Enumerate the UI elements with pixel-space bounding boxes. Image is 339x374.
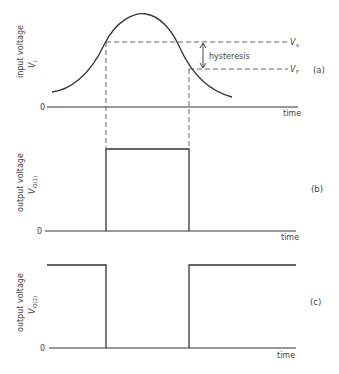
input-signal-curve <box>52 14 232 97</box>
hysteresis-label: hysteresis <box>209 52 250 61</box>
zero-label-a: 0 <box>40 103 45 112</box>
part-label-c: (c) <box>310 297 321 307</box>
panel-c: 0 time (c) output voltage V O(2) <box>16 265 321 360</box>
ylabel-b: output voltage <box>16 153 25 212</box>
ysymbol-sub-b: O(1) <box>32 176 38 188</box>
time-label-a: time <box>283 109 301 118</box>
panel-a: 0 time V s V F hysteresis (a) input volt… <box>16 14 325 118</box>
time-label-c: time <box>277 351 295 360</box>
time-label-b: time <box>281 233 299 242</box>
part-label-b: (b) <box>311 184 323 194</box>
output2-high-left <box>47 265 106 348</box>
schmitt-trigger-diagram: 0 time V s V F hysteresis (a) input volt… <box>0 0 339 374</box>
ylabel-a: input voltage <box>16 25 25 78</box>
output2-high-right <box>189 265 296 348</box>
ylabel-c: output voltage <box>16 273 25 332</box>
panel-b: 0 time (b) output voltage V O(1) <box>16 149 323 242</box>
upper-threshold-sub: s <box>296 42 299 48</box>
ysymbol-sub-c: O(2) <box>32 296 38 308</box>
part-label-a: (a) <box>313 65 325 75</box>
zero-label-b: 0 <box>37 227 42 236</box>
output1-pulse <box>106 149 189 231</box>
ysymbol-sub-a: I <box>32 60 38 62</box>
zero-label-c: 0 <box>40 344 45 353</box>
lower-threshold-sub: F <box>296 69 299 75</box>
